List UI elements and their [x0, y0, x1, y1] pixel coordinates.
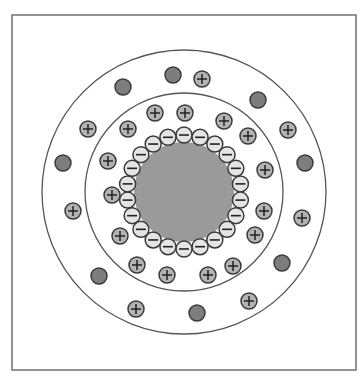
anion-icon [120, 176, 136, 192]
neutral-particle-icon [91, 268, 107, 284]
neutral-particle-icon [55, 155, 71, 171]
cation-icon [129, 257, 145, 273]
cation-icon [200, 267, 216, 283]
cation-icon [147, 105, 163, 121]
anion-icon [176, 127, 192, 143]
cation-icon [256, 203, 272, 219]
cation-icon [194, 71, 210, 87]
neutral-particle-icon [115, 79, 131, 95]
cation-icon [128, 301, 144, 317]
cation-icon [120, 121, 136, 137]
cation-icon [104, 187, 120, 203]
cation-icon [257, 162, 273, 178]
cation-icon [80, 121, 96, 137]
cation-icon [241, 293, 257, 309]
neutral-particle-icon [274, 255, 290, 271]
cation-icon [159, 267, 175, 283]
anion-icon [207, 232, 223, 248]
neutral-particle-icon [250, 92, 266, 108]
anion-icon [176, 241, 192, 257]
anion-icon [124, 208, 140, 224]
cation-icon [177, 105, 193, 121]
anion-icon [192, 129, 208, 145]
anion-icon [145, 136, 161, 152]
anion-icon [160, 239, 176, 255]
anion-icon [232, 176, 248, 192]
neutral-particle-icon [297, 155, 313, 171]
anion-icon [228, 160, 244, 176]
cation-icon [240, 128, 256, 144]
anion-icon [120, 192, 136, 208]
cation-icon [216, 113, 232, 129]
neutral-particle-icon [165, 67, 181, 83]
cation-icon [65, 203, 81, 219]
cation-icon [280, 122, 296, 138]
anion-icon [232, 192, 248, 208]
cation-icon [247, 227, 263, 243]
anion-icon [160, 129, 176, 145]
cation-icon [100, 153, 116, 169]
cation-icon [112, 228, 128, 244]
electric-double-layer-diagram [0, 0, 364, 377]
cation-icon [225, 258, 241, 274]
neutral-particle-icon [189, 305, 205, 321]
anion-icon [192, 239, 208, 255]
cation-icon [294, 210, 310, 226]
